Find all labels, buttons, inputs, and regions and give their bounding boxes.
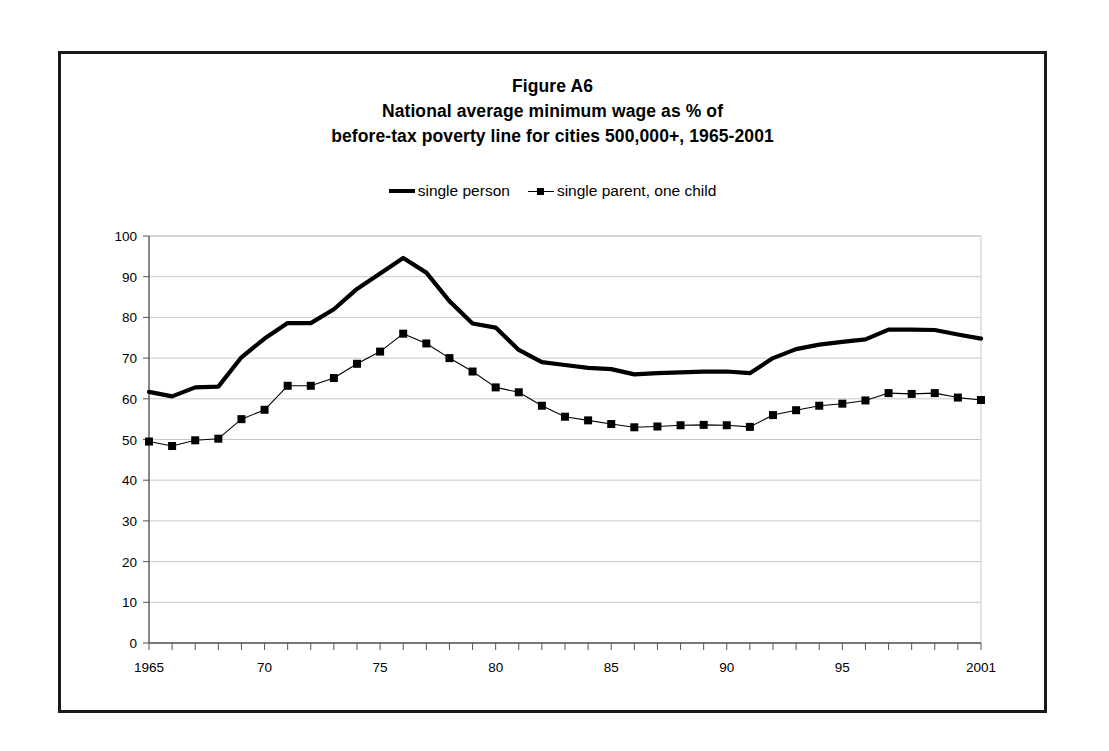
series-marker-1 [954,394,962,402]
x-axis-tick-labels: 19657075808590952001 [134,660,996,675]
series-marker-1 [653,422,661,430]
y-axis-tick-labels: 0102030405060708090100 [114,229,137,651]
y-axis-tick-label: 40 [122,473,137,488]
series-marker-1 [330,374,338,382]
series-marker-1 [538,402,546,410]
x-axis-tick-label: 90 [719,660,734,675]
y-axis-tick-label: 30 [122,514,137,529]
y-axis-tick-label: 90 [122,270,137,285]
series-marker-1 [700,421,708,429]
series-marker-1 [931,389,939,397]
series-marker-1 [723,421,731,429]
series-marker-1 [284,382,292,390]
y-axis-tick-label: 50 [122,433,137,448]
series-marker-1 [237,415,245,423]
series-line-1 [149,334,981,446]
figure-frame: Figure A6 National average minimum wage … [58,51,1047,713]
y-axis-tick-label: 100 [114,229,137,244]
series-marker-1 [214,435,222,443]
series-marker-1 [908,390,916,398]
chart-canvas: 0102030405060708090100 19657075808590952… [61,54,1050,716]
series-marker-1 [261,406,269,414]
x-axis-tick-label: 95 [835,660,850,675]
series-marker-1 [861,396,869,404]
series-marker-1 [191,436,199,444]
series-marker-1 [168,442,176,450]
x-axis-tick-label: 1965 [134,660,164,675]
y-axis-tick-label: 10 [122,595,137,610]
series-marker-1 [815,402,823,410]
series-marker-1 [769,411,777,419]
series-marker-1 [445,354,453,362]
series-marker-1 [422,339,430,347]
series-marker-1 [746,423,754,431]
x-axis-tick-label: 85 [604,660,619,675]
series-marker-1 [145,438,153,446]
gridlines [149,236,981,643]
x-axis-tick-label: 75 [373,660,388,675]
y-axis-tick-label: 70 [122,351,137,366]
series-marker-1 [492,383,500,391]
y-axis-tick-label: 60 [122,392,137,407]
y-axis-tick-label: 20 [122,555,137,570]
y-axis-tick-label: 0 [129,636,137,651]
series-line-0 [149,258,981,396]
series-marker-1 [885,389,893,397]
x-axis-tick-label: 70 [257,660,272,675]
y-axis-tick-label: 80 [122,310,137,325]
x-axis-tick-label: 2001 [966,660,996,675]
series-marker-1 [838,400,846,408]
series-marker-1 [630,423,638,431]
series-marker-1 [677,421,685,429]
series-marker-1 [353,360,361,368]
x-axis-ticks [149,643,981,650]
series-marker-1 [607,420,615,428]
series-marker-1 [584,416,592,424]
plot-area: 0102030405060708090100 19657075808590952… [61,54,1050,716]
series-marker-1 [376,348,384,356]
series-marker-1 [977,396,985,404]
series-marker-1 [515,388,523,396]
series-marker-1 [307,382,315,390]
series-marker-1 [792,406,800,414]
data-series-layer [145,258,985,450]
series-marker-1 [469,368,477,376]
series-marker-1 [561,413,569,421]
series-marker-1 [399,330,407,338]
x-axis-tick-label: 80 [488,660,503,675]
